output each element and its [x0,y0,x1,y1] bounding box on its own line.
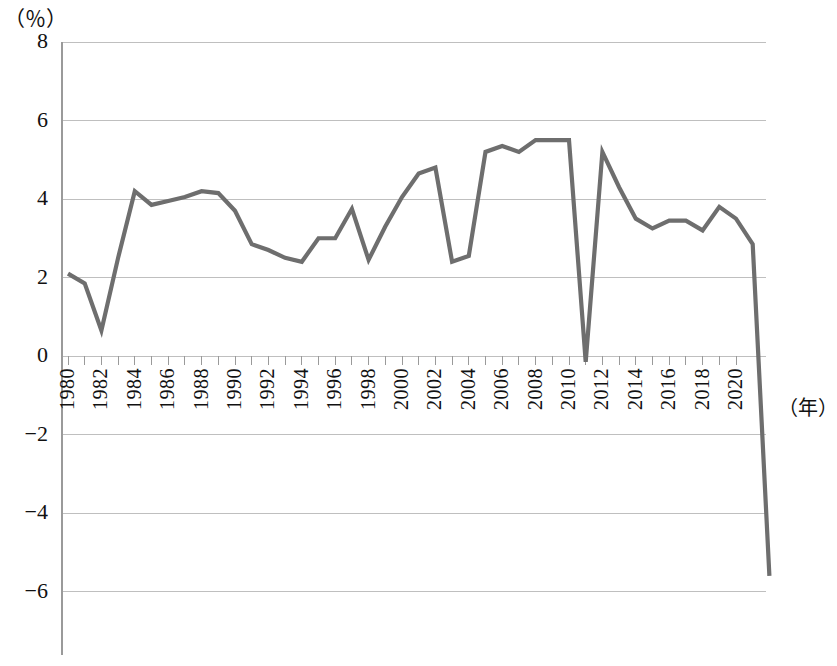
y-tick-label: −4 [2,501,48,523]
y-tick-label: 4 [2,187,48,209]
x-tick-label: 2002 [424,368,444,410]
x-tick-label: 2014 [625,368,645,410]
x-tick-label: 2010 [558,368,578,410]
x-tick-label: 2016 [658,368,678,410]
y-tick-label: −6 [2,580,48,602]
x-tick-label: 1996 [324,368,344,410]
y-tick-label: 0 [2,344,48,366]
x-tick-label: 1986 [157,368,177,410]
x-tick-label: 2000 [391,368,411,410]
x-tick-label: 2018 [692,368,712,410]
x-tick-label: 2020 [725,368,745,410]
y-tick-label: 2 [2,266,48,288]
growth-rate-line-chart: （％） （年） 86420−2−4−6 19801982198419861988… [0,0,837,666]
x-tick-label: 2012 [591,368,611,410]
x-tick-label: 1988 [191,368,211,410]
x-axis-tick-marks [68,356,736,365]
x-tick-label: 1998 [358,368,378,410]
x-tick-label: 1984 [124,368,144,410]
x-tick-label: 1994 [291,368,311,410]
x-tick-label: 2004 [458,368,478,410]
x-tick-label: 2006 [491,368,511,410]
gridlines [62,42,766,592]
plot-area [0,0,837,666]
x-tick-label: 1992 [257,368,277,410]
y-tick-label: 6 [2,109,48,131]
x-tick-label: 1980 [57,368,77,410]
x-tick-label: 1982 [90,368,110,410]
y-tick-label: −2 [2,423,48,445]
x-tick-label: 1990 [224,368,244,410]
y-tick-label: 8 [2,30,48,52]
x-tick-label: 2008 [525,368,545,410]
